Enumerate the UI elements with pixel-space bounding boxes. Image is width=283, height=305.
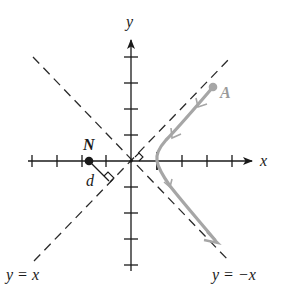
asymptote-y-equals-neg-x-label: y = −x — [210, 266, 256, 284]
origin-right-angle-marker — [135, 153, 143, 161]
distance-label: d — [86, 172, 95, 189]
asymptote-y-equals-x-label: y = x — [4, 266, 39, 284]
y-axis-label: y — [124, 13, 134, 31]
point-n — [85, 157, 94, 166]
x-axis-label: x — [259, 152, 267, 169]
hyperbola-diagram: A N d x y y = x y = −x — [0, 0, 283, 305]
asymptote-y-equals-x — [34, 56, 232, 261]
point-a — [209, 83, 218, 92]
hyperbola-right-branch — [157, 87, 215, 240]
point-n-label: N — [82, 136, 96, 153]
curve-direction-arrows — [164, 98, 207, 187]
point-a-label: A — [219, 84, 231, 101]
origin-dot — [129, 159, 132, 162]
